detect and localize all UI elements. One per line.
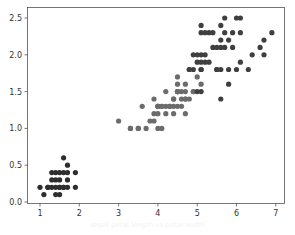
- data-point: [234, 67, 239, 72]
- data-point: [171, 96, 176, 101]
- data-point: [73, 170, 78, 175]
- data-point: [226, 67, 231, 72]
- y-tick-label: 0.5: [9, 161, 22, 170]
- scatter-chart: 1234567 0.00.51.01.52.02.5: [0, 0, 295, 235]
- x-tick-label: 5: [195, 209, 200, 218]
- data-point: [261, 38, 266, 43]
- data-point: [230, 30, 235, 35]
- data-point: [203, 60, 208, 65]
- data-point: [222, 15, 227, 20]
- data-point: [179, 96, 184, 101]
- x-tick-label: 4: [155, 209, 160, 218]
- data-point: [191, 52, 196, 57]
- data-point: [57, 177, 62, 182]
- data-point: [258, 45, 263, 50]
- data-point: [203, 52, 208, 57]
- data-point: [199, 82, 204, 87]
- data-point: [136, 126, 141, 131]
- data-point: [195, 74, 200, 79]
- data-point: [140, 104, 145, 109]
- data-point: [222, 30, 227, 35]
- data-point: [199, 23, 204, 28]
- data-point: [179, 104, 184, 109]
- data-point: [175, 82, 180, 87]
- x-tick-label: 2: [77, 209, 82, 218]
- data-point: [147, 118, 152, 123]
- y-tick-label: 1.5: [9, 88, 22, 97]
- data-point: [199, 67, 204, 72]
- data-point: [49, 177, 54, 182]
- data-point: [53, 192, 58, 197]
- data-point: [144, 126, 149, 131]
- x-tick-label: 6: [234, 209, 239, 218]
- data-point: [218, 45, 223, 50]
- data-point: [175, 74, 180, 79]
- data-point: [183, 111, 188, 116]
- data-point: [226, 82, 231, 87]
- data-point: [175, 89, 180, 94]
- data-point: [116, 118, 121, 123]
- y-tick-label: 1.0: [9, 124, 22, 133]
- data-point: [218, 96, 223, 101]
- data-point: [163, 89, 168, 94]
- data-point: [195, 60, 200, 65]
- x-tick-label: 1: [37, 209, 42, 218]
- data-point: [269, 30, 274, 35]
- data-point: [183, 89, 188, 94]
- data-point: [155, 111, 160, 116]
- y-tick-label: 2.0: [9, 51, 22, 60]
- x-tick-label: 3: [116, 209, 121, 218]
- data-point: [151, 96, 156, 101]
- data-point: [159, 104, 164, 109]
- data-point: [65, 177, 70, 182]
- data-point: [226, 38, 231, 43]
- data-point: [171, 111, 176, 116]
- data-point: [261, 52, 266, 57]
- data-point: [210, 30, 215, 35]
- data-point: [159, 126, 164, 131]
- x-tick-label: 7: [273, 209, 278, 218]
- data-point: [210, 45, 215, 50]
- data-point: [57, 185, 62, 190]
- data-point: [238, 60, 243, 65]
- data-point: [41, 192, 46, 197]
- data-points: [37, 15, 274, 197]
- y-axis: 0.00.51.01.52.02.5: [9, 14, 27, 207]
- data-point: [230, 45, 235, 50]
- data-point: [187, 96, 192, 101]
- caption: sepal petal length vs petal width: [0, 221, 295, 229]
- data-point: [167, 104, 172, 109]
- data-point: [199, 89, 204, 94]
- data-point: [238, 15, 243, 20]
- data-point: [250, 52, 255, 57]
- data-point: [128, 126, 133, 131]
- y-tick-label: 2.5: [9, 14, 22, 23]
- data-point: [37, 185, 42, 190]
- data-point: [218, 23, 223, 28]
- data-point: [163, 111, 168, 116]
- data-point: [65, 163, 70, 168]
- data-point: [183, 82, 188, 87]
- data-point: [61, 155, 66, 160]
- data-point: [218, 38, 223, 43]
- data-point: [238, 30, 243, 35]
- x-axis: 1234567: [37, 204, 278, 219]
- data-point: [73, 185, 78, 190]
- y-tick-label: 0.0: [9, 198, 22, 207]
- data-point: [45, 185, 50, 190]
- data-point: [214, 67, 219, 72]
- data-point: [203, 30, 208, 35]
- data-point: [187, 67, 192, 72]
- data-point: [246, 67, 251, 72]
- data-point: [53, 170, 58, 175]
